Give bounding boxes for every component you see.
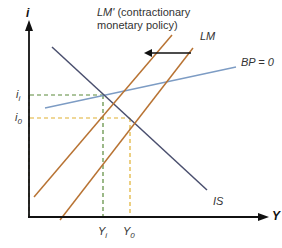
lm-label: LM <box>200 30 215 42</box>
is-label: IS <box>213 195 223 207</box>
i1-label: ii <box>16 88 20 105</box>
lm-prime-label-name: LM' <box>97 6 114 18</box>
lm-prime-label: LM' (contractionary <box>97 6 190 18</box>
lm-prime-label-line2: monetary policy) <box>97 19 178 31</box>
i0-label-sub: 0 <box>17 117 21 126</box>
bp-curve <box>45 67 236 108</box>
bp-label: BP = 0 <box>241 56 274 68</box>
is-lm-bp-diagram <box>0 0 282 248</box>
y0-label-sub: 0 <box>130 231 134 240</box>
x-axis-label: Y <box>272 210 280 222</box>
y1-label-sub: i <box>105 231 107 240</box>
i0-label: i0 <box>15 111 22 128</box>
guide-lines-i1-y1 <box>30 95 103 216</box>
x-axis-arrow-icon <box>258 213 269 221</box>
y-axis-label: i <box>26 7 29 19</box>
y1-label: Yi <box>98 225 107 242</box>
guide-lines-i0-y0 <box>30 118 130 216</box>
y0-label: Y0 <box>123 225 135 242</box>
lm-prime-label-desc1: (contractionary <box>114 6 190 18</box>
i1-label-sub: i <box>18 94 20 103</box>
y-axis-arrow-icon <box>25 20 33 31</box>
